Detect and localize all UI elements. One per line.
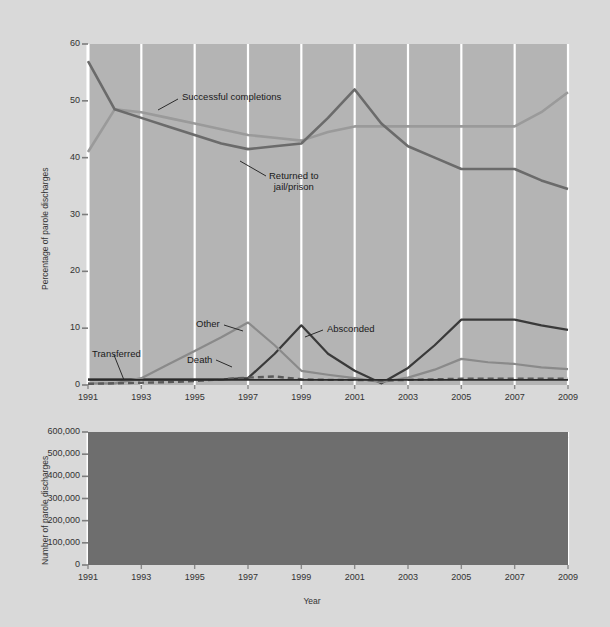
top-series-returned-to-jail-prison bbox=[88, 61, 568, 189]
bottom-chart-plot-area bbox=[88, 432, 568, 565]
bottom-y-tick-label: 400,000 bbox=[30, 470, 80, 480]
bottom-x-tick-label: 2003 bbox=[386, 572, 430, 582]
bottom-x-tick-label: 1995 bbox=[173, 572, 217, 582]
bottom-x-tick-label: 1991 bbox=[66, 572, 110, 582]
top-y-tick-label: 40 bbox=[46, 152, 80, 162]
figure-canvas: Percentage of parole discharges 01020304… bbox=[0, 0, 610, 627]
top-y-tick-label: 20 bbox=[46, 265, 80, 275]
top-x-tick-label: 2009 bbox=[546, 392, 590, 402]
top-y-tick-label: 0 bbox=[46, 379, 80, 389]
annotation-other: Other bbox=[196, 318, 220, 329]
annotation-absconded: Absconded bbox=[327, 323, 375, 334]
top-y-tick-label: 50 bbox=[46, 95, 80, 105]
top-x-tick-label: 1991 bbox=[66, 392, 110, 402]
bottom-x-tick-label: 1993 bbox=[119, 572, 163, 582]
annotation-returned-to: Returned tojail/prison bbox=[269, 170, 319, 192]
bottom-chart-x-axis-title: Year bbox=[303, 596, 320, 606]
bottom-x-tick-label: 2007 bbox=[493, 572, 537, 582]
bottom-y-tick-label: 100,000 bbox=[30, 537, 80, 547]
bottom-x-tick-label: 1997 bbox=[226, 572, 270, 582]
annotation-transferred: Transferred bbox=[92, 348, 141, 359]
bottom-y-tick-label: 200,000 bbox=[30, 515, 80, 525]
bottom-y-tick-label: 600,000 bbox=[30, 426, 80, 436]
top-x-tick-label: 2001 bbox=[333, 392, 377, 402]
annotation-death: Death bbox=[187, 354, 212, 365]
bottom-y-tick-label: 300,000 bbox=[30, 493, 80, 503]
top-series-successful-completions bbox=[88, 92, 568, 152]
top-x-tick-label: 2003 bbox=[386, 392, 430, 402]
top-y-tick-label: 30 bbox=[46, 209, 80, 219]
bottom-x-tick-label: 2001 bbox=[333, 572, 377, 582]
top-x-tick-label: 1997 bbox=[226, 392, 270, 402]
bottom-x-tick-label: 2009 bbox=[546, 572, 590, 582]
top-y-tick-label: 60 bbox=[46, 38, 80, 48]
top-y-tick-label: 10 bbox=[46, 322, 80, 332]
annotation-line: jail/prison bbox=[269, 181, 319, 192]
bottom-y-tick-label: 0 bbox=[30, 559, 80, 569]
annotation-successful-completions: Successful completions bbox=[182, 91, 281, 102]
top-x-tick-label: 1993 bbox=[119, 392, 163, 402]
bottom-x-tick-label: 2005 bbox=[439, 572, 483, 582]
bottom-x-tick-label: 1999 bbox=[279, 572, 323, 582]
top-x-tick-label: 2007 bbox=[493, 392, 537, 402]
bottom-y-tick-label: 500,000 bbox=[30, 448, 80, 458]
top-x-tick-label: 1999 bbox=[279, 392, 323, 402]
top-x-tick-label: 1995 bbox=[173, 392, 217, 402]
top-chart-series-lines bbox=[88, 61, 568, 384]
top-chart-tick-marks bbox=[82, 44, 568, 389]
top-x-tick-label: 2005 bbox=[439, 392, 483, 402]
annotation-line: Returned to bbox=[269, 170, 319, 181]
